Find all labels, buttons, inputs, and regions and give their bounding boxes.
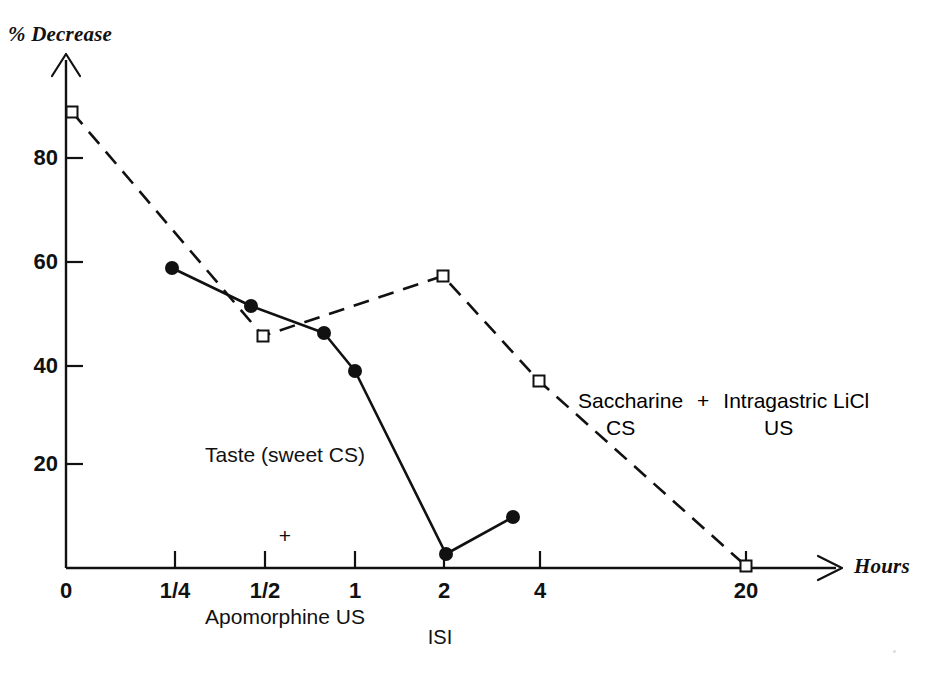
- chart-figure: % Decrease Hours 80 60 40 20 0 1/4 1/2 1…: [0, 0, 930, 678]
- chart-canvas: [0, 0, 930, 678]
- x-tick-label-4: 4: [516, 578, 564, 604]
- annotation-left-line1: Taste (sweet CS): [160, 441, 410, 468]
- annotation-right-us-abbrev: US: [764, 414, 793, 441]
- annotation-left-line2: +: [160, 522, 410, 549]
- scan-speck: [893, 650, 896, 653]
- y-axis-title: % Decrease: [8, 22, 112, 47]
- x-axis-title: Hours: [854, 554, 910, 579]
- y-tick-marks: [66, 158, 83, 464]
- annotation-left-line3: Apomorphine US: [160, 603, 410, 630]
- y-tick-label-80: 80: [10, 145, 58, 171]
- x-tick-label-20: 20: [722, 578, 770, 604]
- annotation-right-plus: +: [697, 387, 709, 414]
- y-tick-label-20: 20: [10, 451, 58, 477]
- x-tick-label-2: 2: [420, 578, 468, 604]
- y-axis: [52, 54, 80, 568]
- annotation-right-cs-abbrev: CS: [606, 414, 635, 441]
- annotation-taste-apomorphine: Taste (sweet CS) + Apomorphine US: [160, 387, 410, 678]
- annotation-right-line1: Saccharine + Intragastric LiCl: [578, 387, 898, 414]
- annotation-right-cs-term: Saccharine: [578, 387, 683, 414]
- x-tick-label-0: 0: [42, 578, 90, 604]
- annotation-right-line2: CS US: [578, 414, 898, 442]
- annotation-right-us-term: Intragastric LiCl: [723, 387, 869, 414]
- y-tick-label-60: 60: [10, 249, 58, 275]
- annotation-saccharine-licl: Saccharine + Intragastric LiCl CS US: [578, 387, 898, 442]
- y-tick-label-40: 40: [10, 353, 58, 379]
